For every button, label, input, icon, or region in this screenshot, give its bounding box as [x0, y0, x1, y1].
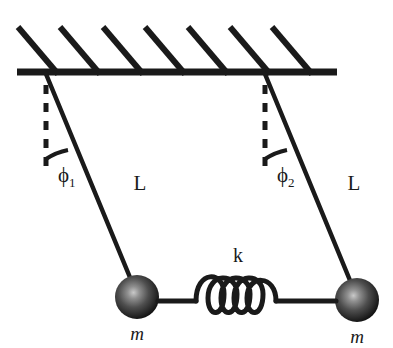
hatch-line-5 — [188, 27, 228, 74]
length-label-right: L — [348, 171, 361, 195]
angle-arc-left — [46, 150, 68, 159]
hatch-line-4 — [145, 27, 185, 74]
angle-label-right: ϕ2 — [277, 163, 295, 190]
spring-coils — [196, 277, 276, 313]
length-label-left: L — [134, 171, 147, 195]
mass-label-left: m — [130, 323, 144, 344]
hatch-line-2 — [60, 27, 100, 74]
angle-label-left: ϕ1 — [58, 163, 76, 190]
hatch-line-3 — [103, 27, 143, 74]
pendulum-right — [265, 74, 379, 322]
ceiling-hatching — [18, 27, 312, 74]
angle-right-symbol: ϕ — [277, 163, 288, 187]
pendulum-left — [46, 74, 159, 319]
hatch-line-7 — [272, 27, 312, 74]
mass-label-right: m — [350, 326, 364, 347]
physics-diagram-canvas: L L k m m ϕ1 ϕ2 — [0, 0, 393, 348]
hatch-line-1 — [18, 27, 58, 74]
angle-right-subscript: 2 — [288, 175, 295, 190]
pendulum-bob-left — [115, 275, 159, 319]
angle-arc-right — [265, 150, 287, 159]
spring-constant-label: k — [233, 244, 243, 266]
angle-left-subscript: 1 — [69, 175, 76, 190]
angle-left-symbol: ϕ — [58, 163, 69, 187]
hatch-line-6 — [230, 27, 270, 74]
pendulum-bob-right — [335, 278, 379, 322]
coupled-pendulum-diagram: L L k m m ϕ1 ϕ2 — [0, 0, 393, 348]
coupling-spring — [158, 277, 336, 313]
